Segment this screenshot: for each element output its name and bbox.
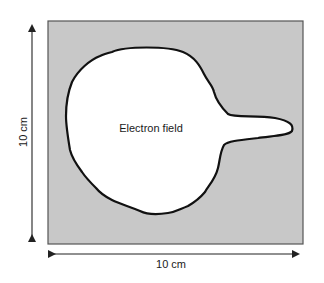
field-label: Electron field	[119, 122, 183, 134]
electron-field-diagram: Electron field 10 cm 10 cm	[0, 0, 324, 283]
width-label: 10 cm	[156, 258, 186, 270]
height-label: 10 cm	[17, 117, 29, 147]
